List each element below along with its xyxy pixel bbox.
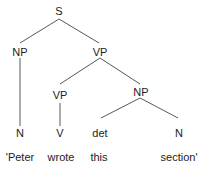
word-section: section' (161, 151, 198, 163)
edge-s-vp (59, 19, 99, 43)
word-peter: 'Peter (6, 151, 34, 163)
edge-np-n2 (140, 98, 178, 118)
node-np-subject: NP (12, 46, 27, 58)
tree-edges (0, 0, 207, 170)
node-n-subject: N (16, 127, 24, 139)
node-vp-top: VP (93, 46, 108, 58)
node-np-object: NP (133, 86, 148, 98)
edge-vp-np (100, 58, 140, 84)
node-vp-inner: VP (53, 89, 68, 101)
node-v: V (56, 127, 63, 139)
edge-np-det (101, 98, 140, 118)
node-n-object: N (175, 127, 183, 139)
node-s: S (55, 5, 62, 17)
node-det: det (92, 127, 107, 139)
word-this: this (90, 151, 107, 163)
edge-vp-vp (60, 58, 100, 84)
edge-s-np (20, 19, 59, 43)
word-wrote: wrote (48, 151, 75, 163)
